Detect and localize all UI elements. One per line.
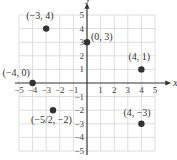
axes: xy xyxy=(15,0,177,155)
coordinate-plane: xy −5−4−3−2−11234554321−1−2−3−4−5 (−3, 4… xyxy=(0,0,177,160)
x-tick-label: 1 xyxy=(98,85,103,95)
y-tick-label: 4 xyxy=(80,24,85,34)
x-tick-label: 5 xyxy=(153,85,158,95)
data-point xyxy=(138,66,144,72)
y-tick-label: 3 xyxy=(80,37,85,47)
x-axis-arrow-icon xyxy=(165,81,171,86)
y-tick-label: −5 xyxy=(74,146,84,156)
point-label: (4, 1) xyxy=(128,51,150,63)
x-tick-label: −5 xyxy=(14,85,24,95)
x-tick-label: 2 xyxy=(112,85,117,95)
x-tick-label: 3 xyxy=(126,85,131,95)
y-tick-label: 5 xyxy=(80,10,85,20)
x-tick-label: −3 xyxy=(41,85,51,95)
y-tick-label: 2 xyxy=(80,51,85,61)
data-point xyxy=(29,80,35,86)
y-tick-label: −3 xyxy=(74,119,84,129)
y-axis-label: y xyxy=(85,0,91,4)
x-axis-label: x xyxy=(172,77,177,88)
point-label: (−4, 0) xyxy=(3,67,30,79)
point-label: (−5/2, −2) xyxy=(31,114,72,126)
point-label: (0, 3) xyxy=(91,31,113,43)
data-point xyxy=(50,107,56,113)
x-tick-label: 4 xyxy=(139,85,144,95)
point-label: (4, −3) xyxy=(123,107,150,119)
point-label: (−3, 4) xyxy=(26,10,53,22)
data-point xyxy=(84,39,90,45)
y-tick-label: −4 xyxy=(74,132,84,142)
x-tick-label: −2 xyxy=(55,85,65,95)
y-tick-label: 1 xyxy=(80,64,85,74)
data-point xyxy=(138,121,144,127)
y-tick-label: −1 xyxy=(74,92,84,102)
data-point xyxy=(43,25,49,31)
y-tick-label: −2 xyxy=(74,105,84,115)
x-tick-label: −4 xyxy=(28,85,38,95)
